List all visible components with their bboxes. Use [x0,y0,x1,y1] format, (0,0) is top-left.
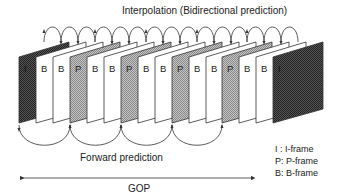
frame-label: B [92,63,98,74]
frame-label: P [75,63,81,74]
frame-label: B [194,63,200,74]
frame-label: P [177,63,183,74]
frame-label: I [24,63,27,74]
gop-label: GOP [128,183,150,194]
forward-prediction-arcs [18,124,224,145]
frame-label: P [227,63,233,74]
frame-label: P [126,63,132,74]
frame-label: B [58,63,64,74]
frame-label: B [143,63,149,74]
frame-label: I [278,63,281,74]
legend-item-i: I : I-frame [275,143,318,155]
frame-label: B [109,63,115,74]
frame-label: B [244,63,250,74]
legend: I : I-frame P: P-frame B: B-frame [275,143,318,179]
frame-label: B [211,63,217,74]
interpolation-title: Interpolation (Bidirectional prediction) [122,5,287,16]
legend-item-b: B: B-frame [275,167,318,179]
legend-item-p: P: P-frame [275,155,318,167]
frame-label: B [41,63,47,74]
frame-label: B [160,63,166,74]
frame-label: B [261,63,267,74]
forward-prediction-label: Forward prediction [80,152,163,163]
frame-sequence [19,42,323,123]
